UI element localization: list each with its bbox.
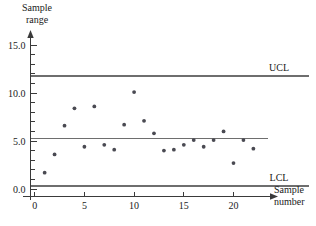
x-tick-label: 20 bbox=[229, 200, 239, 211]
chart-canvas: 15.010.05.00.0 05101520 UCLLCL bbox=[0, 0, 316, 226]
data-point bbox=[152, 131, 156, 135]
y-axis-minor-ticks bbox=[31, 55, 35, 180]
y-axis-title-line2: range bbox=[6, 14, 68, 26]
data-point bbox=[232, 161, 236, 165]
data-point bbox=[132, 90, 136, 94]
y-tick-label: 5.0 bbox=[13, 136, 26, 147]
x-tick-label: 5 bbox=[82, 200, 87, 211]
control-limit-labels: UCLLCL bbox=[269, 62, 289, 183]
data-point bbox=[142, 119, 146, 123]
y-tick-label: 15.0 bbox=[8, 40, 26, 51]
ucl-label: UCL bbox=[269, 62, 289, 73]
y-axis-title: Sample range bbox=[6, 2, 68, 26]
y-axis-tick-labels: 15.010.05.00.0 bbox=[8, 40, 26, 195]
control-limit-lines bbox=[31, 76, 310, 186]
x-tick-label: 0 bbox=[32, 200, 37, 211]
data-point-series bbox=[43, 90, 256, 174]
data-point bbox=[53, 153, 57, 157]
data-point bbox=[222, 130, 226, 134]
data-point bbox=[63, 124, 67, 128]
y-tick-label: 10.0 bbox=[8, 88, 26, 99]
data-point bbox=[92, 105, 96, 109]
data-point bbox=[192, 138, 196, 142]
data-point bbox=[112, 148, 116, 152]
data-point bbox=[172, 148, 176, 152]
x-axis-title-line1: Sample bbox=[274, 184, 316, 196]
x-axis-title-line2: number bbox=[274, 196, 316, 208]
y-tick-label: 0.0 bbox=[13, 184, 26, 195]
data-point bbox=[122, 123, 126, 127]
x-axis-title: Sample number bbox=[274, 184, 316, 208]
x-axis-tick-labels: 05101520 bbox=[32, 200, 238, 211]
data-point bbox=[182, 143, 186, 147]
axis-lines bbox=[23, 30, 279, 200]
data-point bbox=[43, 171, 47, 175]
data-point bbox=[212, 138, 216, 142]
data-point bbox=[73, 106, 77, 110]
data-point bbox=[162, 149, 166, 153]
data-point bbox=[202, 145, 206, 149]
data-point bbox=[251, 147, 255, 151]
control-chart: 15.010.05.00.0 05101520 UCLLCL Sample ra… bbox=[0, 0, 316, 226]
x-tick-label: 15 bbox=[179, 200, 189, 211]
data-point bbox=[242, 138, 246, 142]
x-axis-ticks bbox=[35, 192, 234, 197]
y-axis-title-line1: Sample bbox=[6, 2, 68, 14]
x-tick-label: 10 bbox=[129, 200, 139, 211]
lcl-label: LCL bbox=[270, 172, 289, 183]
data-point bbox=[102, 143, 106, 147]
data-point bbox=[83, 145, 87, 149]
y-axis-major-ticks bbox=[31, 45, 37, 189]
